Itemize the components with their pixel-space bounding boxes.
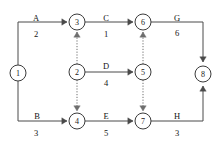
- arrowhead-A: [62, 19, 67, 25]
- edge-duration-B: 3: [34, 128, 38, 138]
- node-label-4: 4: [75, 117, 79, 126]
- node-label-7: 7: [141, 117, 145, 126]
- arrowhead-E: [128, 118, 133, 124]
- edge-duration-H: 3: [175, 128, 179, 138]
- arrowhead-C: [128, 19, 133, 25]
- node-2[interactable]: 2: [69, 64, 85, 80]
- edge-label-B: B: [34, 111, 40, 121]
- edge-duration-C: 1: [104, 29, 108, 39]
- node-label-2: 2: [75, 68, 79, 77]
- network-diagram-canvas: 12345678 A2B3C1D4E5G6H3: [0, 0, 222, 145]
- edge-label-D: D: [103, 61, 109, 71]
- edge-label-E: E: [103, 111, 108, 121]
- edge-label-A: A: [33, 13, 40, 23]
- node-label-3: 3: [75, 18, 79, 27]
- arrowhead-dummy-2-4: [74, 106, 80, 111]
- edge-label-H: H: [174, 111, 180, 121]
- node-6[interactable]: 6: [135, 14, 151, 30]
- arrowhead-dummy-5-6: [140, 32, 146, 37]
- arrowhead-dummy-5-7: [140, 106, 146, 111]
- node-7[interactable]: 7: [135, 113, 151, 129]
- arrowhead-dummy-2-3: [74, 32, 80, 37]
- arrowhead-B: [62, 118, 67, 124]
- node-label-6: 6: [141, 18, 145, 27]
- edge-labels-layer: A2B3C1D4E5G6H3: [33, 13, 180, 138]
- node-label-1: 1: [16, 69, 20, 78]
- edge-B: [18, 81, 67, 121]
- node-1[interactable]: 1: [10, 65, 26, 81]
- arrowhead-D: [128, 69, 133, 75]
- node-label-8: 8: [201, 70, 205, 79]
- arrowhead-G: [200, 57, 206, 62]
- node-3[interactable]: 3: [69, 14, 85, 30]
- arrowhead-H: [200, 86, 206, 91]
- node-5[interactable]: 5: [135, 64, 151, 80]
- node-8[interactable]: 8: [195, 66, 211, 82]
- edge-label-C: C: [103, 13, 109, 23]
- edge-duration-D: 4: [104, 78, 109, 88]
- edge-A: [18, 22, 67, 65]
- node-label-5: 5: [141, 68, 145, 77]
- node-4[interactable]: 4: [69, 113, 85, 129]
- edge-duration-A: 2: [34, 29, 38, 39]
- edge-duration-G: 6: [175, 28, 179, 38]
- edge-duration-E: 5: [104, 128, 108, 138]
- network-diagram: 12345678 A2B3C1D4E5G6H3: [0, 0, 222, 145]
- edge-label-G: G: [174, 13, 180, 23]
